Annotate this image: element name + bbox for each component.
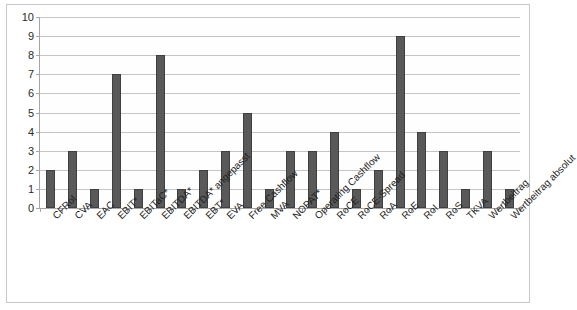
- plot-area: 109876543210 CFRoICVAEACEBIT*EBITaC*EBIT…: [39, 17, 520, 209]
- x-tick-mark: [40, 208, 41, 212]
- y-tick-mark: [36, 132, 40, 133]
- y-tick-mark: [36, 36, 40, 37]
- y-tick-label: 4: [28, 126, 34, 137]
- y-tick-mark: [36, 170, 40, 171]
- y-tick-label: 7: [28, 69, 34, 80]
- y-tick-label: 5: [28, 107, 34, 118]
- y-tick-mark: [36, 74, 40, 75]
- bar: [46, 170, 55, 208]
- y-tick-label: 0: [28, 203, 34, 214]
- bar: [439, 151, 448, 208]
- gridline: [40, 36, 520, 37]
- bar: [417, 132, 426, 208]
- y-tick-label: 1: [28, 183, 34, 194]
- y-tick-mark: [36, 189, 40, 190]
- y-tick-mark: [36, 17, 40, 18]
- y-tick-mark: [36, 93, 40, 94]
- y-tick-label: 6: [28, 88, 34, 99]
- y-tick-label: 3: [28, 145, 34, 156]
- gridline: [40, 55, 520, 56]
- y-tick-mark: [36, 55, 40, 56]
- gridline: [40, 17, 520, 18]
- y-tick-label: 8: [28, 50, 34, 61]
- y-tick-mark: [36, 151, 40, 152]
- chart-frame: 109876543210 CFRoICVAEACEBIT*EBITaC*EBIT…: [6, 4, 530, 303]
- bar: [112, 74, 121, 208]
- y-tick-label: 9: [28, 31, 34, 42]
- chart-title: [40, 3, 520, 15]
- bar: [156, 55, 165, 208]
- y-tick-mark: [36, 113, 40, 114]
- y-tick-label: 2: [28, 164, 34, 175]
- y-tick-label: 10: [22, 12, 34, 23]
